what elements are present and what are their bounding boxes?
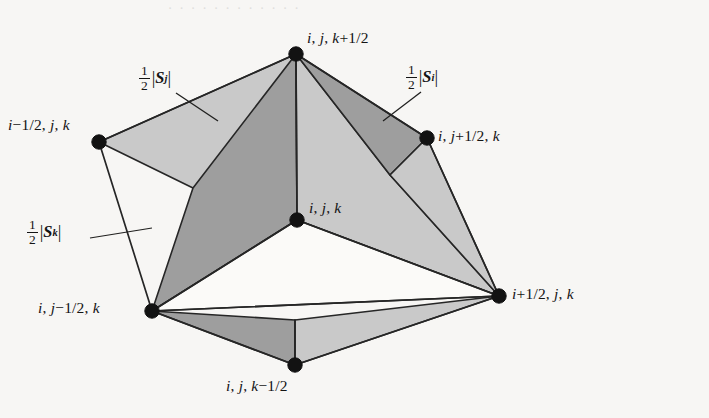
fraction-one-half: 12 bbox=[406, 63, 417, 92]
vertex-label-center: i, j, k bbox=[309, 199, 341, 217]
fraction-numerator: 1 bbox=[406, 63, 417, 77]
fraction-denominator: 2 bbox=[139, 78, 150, 93]
fraction-denominator: 2 bbox=[27, 232, 38, 247]
vertex-label-top: i, j, k+1/2 bbox=[307, 29, 369, 47]
norm-bar-right: | bbox=[58, 222, 62, 243]
vertex-node-bottom-left bbox=[145, 304, 159, 318]
area-label-half-Sj: 12|Sj| bbox=[139, 64, 171, 93]
vertex-node-right bbox=[420, 131, 434, 145]
norm-bar-right: | bbox=[434, 67, 438, 88]
faces-group bbox=[99, 54, 499, 365]
vertex-node-center bbox=[290, 213, 304, 227]
vertex-node-left bbox=[92, 135, 106, 149]
leader-line-half-Si bbox=[383, 92, 421, 121]
vertex-node-bottom bbox=[288, 358, 302, 372]
area-label-half-Sk: 12|Sk| bbox=[27, 218, 61, 247]
vertex-label-right: i, j+1/2, k bbox=[438, 127, 500, 145]
octahedron-diagram bbox=[0, 0, 709, 418]
area-label-half-Si: 12|Si| bbox=[406, 63, 438, 92]
vertex-node-top bbox=[289, 47, 303, 61]
surface-vector-symbol: S bbox=[43, 222, 52, 242]
fraction-numerator: 1 bbox=[27, 218, 38, 232]
vertex-label-bottom: i, j, k−1/2 bbox=[226, 377, 288, 395]
edge-left-to-bottomleft bbox=[99, 142, 152, 311]
fraction-denominator: 2 bbox=[406, 77, 417, 92]
fraction-one-half: 12 bbox=[139, 64, 150, 93]
edge-top-to-center bbox=[296, 54, 297, 220]
vertex-label-far-right: i+1/2, j, k bbox=[512, 285, 574, 303]
vertex-node-far-right bbox=[492, 289, 506, 303]
leader-line-half-Sk bbox=[90, 228, 152, 238]
fraction-one-half: 12 bbox=[27, 218, 38, 247]
vertex-label-left: i−1/2, j, k bbox=[8, 116, 70, 134]
vertex-label-bottom-left: i, j−1/2, k bbox=[38, 299, 100, 317]
surface-vector-symbol: S bbox=[155, 68, 164, 88]
figure-canvas: · · · · · · · · · · · · · · · · · · · · … bbox=[0, 0, 709, 418]
norm-bar-right: | bbox=[167, 68, 171, 89]
surface-vector-symbol: S bbox=[422, 67, 431, 87]
fraction-numerator: 1 bbox=[139, 64, 150, 78]
